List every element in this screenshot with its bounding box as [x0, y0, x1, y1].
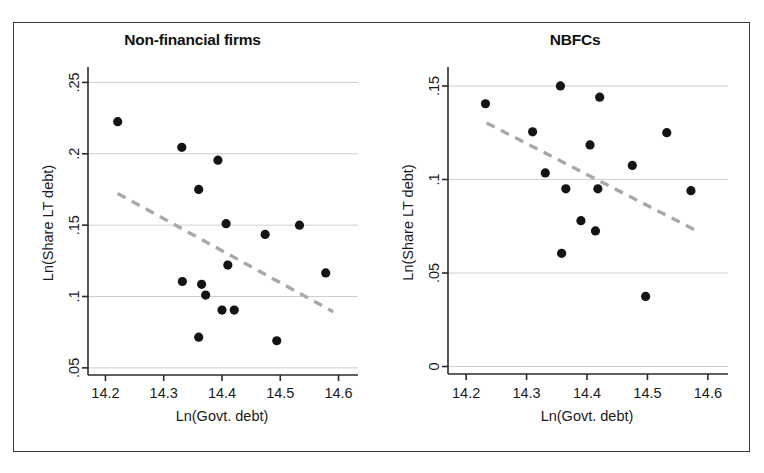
- data-point: [628, 161, 637, 170]
- data-point: [528, 127, 537, 136]
- x-tick-label-2: 14.4: [573, 385, 601, 401]
- chart-panel-non-financial-firms: Non-financial firms .05.1.15.2.2514.214.…: [14, 23, 399, 453]
- x-tick-label-4: 14.6: [324, 385, 352, 401]
- data-point: [217, 305, 226, 314]
- x-tick-label-4: 14.6: [694, 385, 722, 401]
- data-point: [295, 221, 304, 230]
- data-point: [481, 99, 490, 108]
- y-axis-title: Ln(Share LT debt): [40, 165, 56, 281]
- trend-line: [118, 193, 334, 311]
- data-point: [641, 292, 650, 301]
- data-point: [591, 226, 600, 235]
- y-axis-title: Ln(Share LT debt): [400, 164, 416, 280]
- data-point: [197, 280, 206, 289]
- data-point: [662, 128, 671, 137]
- y-tick-label-3: .15: [426, 76, 442, 96]
- figure-frame: Non-financial firms .05.1.15.2.2514.214.…: [13, 22, 750, 452]
- y-tick-label-2: .15: [66, 215, 82, 235]
- data-point: [194, 185, 203, 194]
- y-tick-label-4: .25: [66, 72, 82, 92]
- y-tick-label-3: .2: [66, 148, 82, 160]
- data-point: [595, 93, 604, 102]
- y-tick-label-2: .1: [426, 173, 442, 185]
- data-point: [201, 290, 210, 299]
- data-point: [541, 168, 550, 177]
- data-point: [230, 305, 239, 314]
- y-tick-label-0: 0: [426, 362, 442, 370]
- data-point: [321, 268, 330, 277]
- x-tick-label-3: 14.5: [266, 385, 294, 401]
- data-point: [593, 184, 602, 193]
- trend-line: [487, 123, 698, 231]
- x-tick-label-0: 14.2: [452, 385, 480, 401]
- data-point: [576, 216, 585, 225]
- data-point: [178, 277, 187, 286]
- y-tick-label-1: .1: [66, 290, 82, 302]
- x-tick-label-1: 14.3: [150, 385, 178, 401]
- x-tick-label-3: 14.5: [633, 385, 661, 401]
- data-point: [686, 186, 695, 195]
- data-point: [585, 140, 594, 149]
- y-tick-label-1: .05: [426, 263, 442, 283]
- data-point: [177, 143, 186, 152]
- data-point: [261, 230, 270, 239]
- data-point: [557, 249, 566, 258]
- data-point: [223, 261, 232, 270]
- data-point: [272, 336, 281, 345]
- data-point: [213, 156, 222, 165]
- data-point: [221, 219, 230, 228]
- data-point: [194, 333, 203, 342]
- data-point: [113, 117, 122, 126]
- y-tick-label-0: .05: [66, 358, 82, 378]
- x-tick-label-1: 14.3: [512, 385, 540, 401]
- data-point: [556, 81, 565, 90]
- scatter-plot-non-financial-firms: .05.1.15.2.2514.214.314.414.514.6Ln(Govt…: [14, 23, 399, 453]
- data-point: [561, 184, 570, 193]
- chart-panel-nbfcs: NBFCs 0.05.1.1514.214.314.414.514.6Ln(Go…: [399, 23, 751, 453]
- x-tick-label-0: 14.2: [91, 385, 119, 401]
- scatter-plot-nbfcs: 0.05.1.1514.214.314.414.514.6Ln(Govt. de…: [399, 23, 751, 453]
- x-axis-title: Ln(Govt. debt): [541, 408, 634, 424]
- x-tick-label-2: 14.4: [208, 385, 236, 401]
- x-axis-title: Ln(Govt. debt): [176, 408, 269, 424]
